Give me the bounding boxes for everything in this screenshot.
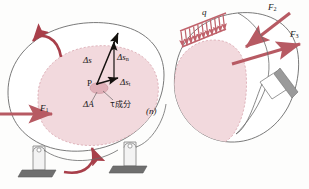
left-body-section-fill (38, 46, 158, 146)
support-pin-right (109, 142, 147, 173)
support-pin-left (18, 146, 56, 177)
label-delta-s-t: Δst (120, 78, 131, 87)
label-delta-s-t-base: Δs (120, 77, 129, 87)
label-force-f1: F1 (40, 104, 49, 113)
label-area-dA: ΔA (83, 100, 94, 109)
label-delta-s-t-sub: t (129, 81, 131, 87)
figure-canvas: Δs Δsn Δst P ΔA τ成分 (n) F1 q F2 F3 (0, 0, 309, 189)
label-f3-sub: 3 (296, 33, 299, 39)
label-force-f2: F2 (268, 3, 277, 12)
label-delta-s-n-base: Δs (117, 52, 126, 62)
left-body-group (0, 23, 164, 173)
point-P-dot (96, 83, 98, 85)
label-delta-s: Δs (83, 56, 92, 65)
label-force-f3: F3 (290, 30, 299, 39)
label-f2-sub: 2 (274, 6, 277, 12)
label-tau-component: τ成分 (110, 101, 131, 109)
label-delta-s-n: Δsn (117, 53, 129, 62)
label-section-n: (n) (146, 107, 157, 116)
label-f1-sub: 1 (46, 107, 49, 113)
label-load-q: q (202, 8, 207, 17)
label-point-p: P (87, 79, 92, 88)
diagram-svg (0, 0, 309, 189)
support-connector-left (44, 150, 118, 161)
label-delta-s-n-sub: n (126, 56, 129, 62)
